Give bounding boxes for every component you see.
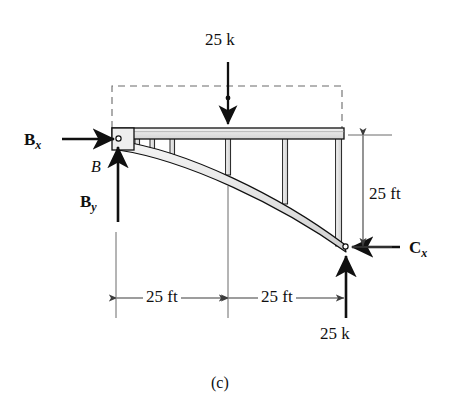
reaction-label-bx-sub: x — [35, 138, 41, 152]
load-label-top: 25 k — [205, 31, 235, 48]
support-block-b — [112, 128, 134, 150]
structure-diagram — [0, 0, 453, 416]
reaction-label-by-sub: y — [91, 200, 96, 214]
pin-label-b: B — [91, 159, 101, 175]
arch-rib-member — [118, 141, 346, 252]
dimension-label-rise: 25 ft — [366, 183, 404, 204]
pin-c-hinge — [343, 244, 348, 249]
reaction-label-by: By — [80, 193, 97, 213]
reaction-label-cx-sub: x — [421, 246, 427, 260]
reaction-label-cx: Cx — [409, 239, 427, 259]
dimension-label-left-span: 25 ft — [143, 288, 181, 305]
figure-caption: (c) — [211, 375, 229, 391]
load-arrow-top — [226, 62, 231, 124]
deck-tie-beam — [112, 128, 344, 139]
dimension-label-right-span: 25 ft — [258, 288, 296, 305]
load-label-bottom: 25 k — [320, 325, 350, 342]
reaction-label-by-main: B — [80, 192, 91, 211]
pin-b-hinge — [116, 136, 121, 141]
reaction-label-cx-main: C — [409, 238, 421, 257]
figure-container: 25 k 25 k Bx B By Cx 25 ft 25 ft 25 ft (… — [0, 0, 453, 416]
reaction-label-bx: Bx — [24, 131, 41, 151]
reaction-label-bx-main: B — [24, 130, 35, 149]
